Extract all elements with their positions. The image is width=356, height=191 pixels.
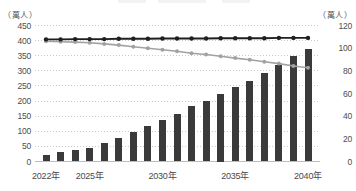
gray-line-left-axis-marker <box>146 46 150 50</box>
bar-2029 <box>144 126 151 161</box>
bar-2034 <box>217 94 224 162</box>
x-axis-tick-label: 2035年 <box>212 169 258 182</box>
dual-axis-combo-chart: （萬人） （萬人） 450400350300250200150100500120… <box>0 0 356 191</box>
left-axis-tick-label: 150 <box>3 111 31 121</box>
bar-2026 <box>101 143 108 161</box>
bar-2023 <box>57 152 64 161</box>
gray-line-left-axis-marker <box>117 43 121 47</box>
gray-line-left-axis-marker <box>88 41 92 45</box>
bar-2037 <box>261 73 268 161</box>
left-axis-tick-label: 300 <box>3 66 31 76</box>
gridline <box>35 25 320 26</box>
left-axis-tick-label: 450 <box>3 21 31 31</box>
gray-line-left-axis-marker <box>102 42 106 46</box>
left-axis-tick-label: 100 <box>3 126 31 136</box>
x-axis-tick-label: 2040年 <box>285 169 331 182</box>
gray-line-left-axis-marker <box>262 60 266 64</box>
x-axis-tick-label: 2022年 <box>23 169 69 182</box>
line-series-overlay <box>0 0 356 191</box>
right-axis-tick-label: 60 <box>328 89 352 99</box>
left-axis-unit-label: （萬人） <box>3 9 37 20</box>
gray-line-left-axis-marker <box>248 58 252 62</box>
x-axis-tick-label: 2030年 <box>139 169 185 182</box>
right-axis-tick-label: 100 <box>328 43 352 53</box>
cropped-legend-artifact <box>222 0 250 3</box>
right-axis-tick-label: 80 <box>328 66 352 76</box>
left-axis-tick-label: 200 <box>3 96 31 106</box>
gridline <box>35 55 320 56</box>
bar-2036 <box>246 81 253 161</box>
gray-line-left-axis-marker <box>160 48 164 52</box>
left-axis-tick-label: 400 <box>3 36 31 46</box>
right-axis-tick-label: 20 <box>328 134 352 144</box>
right-axis-tick-label: 40 <box>328 111 352 121</box>
gray-line-left-axis-marker <box>233 56 237 60</box>
cropped-legend-artifact <box>158 0 206 3</box>
bar-2040 <box>305 49 312 161</box>
gridline <box>35 40 320 41</box>
bar-2032 <box>188 106 195 162</box>
bar-2035 <box>232 87 239 162</box>
left-axis-tick-label: 50 <box>3 141 31 151</box>
left-axis-tick-label: 0 <box>3 157 31 167</box>
right-axis-tick-label: 120 <box>328 21 352 31</box>
bar-2028 <box>130 132 137 161</box>
bar-2031 <box>174 114 181 162</box>
x-axis-tick-label: 2025年 <box>67 169 113 182</box>
right-axis-unit-label: （萬人） <box>318 9 352 20</box>
bar-2038 <box>275 65 282 161</box>
bar-2024 <box>72 150 79 161</box>
cropped-legend-artifact <box>118 0 146 3</box>
right-axis-tick-label: 0 <box>328 157 352 167</box>
bar-2025 <box>86 148 93 162</box>
bar-2030 <box>159 120 166 162</box>
left-axis-tick-label: 350 <box>3 51 31 61</box>
bar-2039 <box>290 56 297 161</box>
gray-line-left-axis-marker <box>131 45 135 49</box>
gray-line-left-axis-marker <box>175 49 179 53</box>
bar-2022 <box>43 155 50 162</box>
left-axis-tick-label: 250 <box>3 81 31 91</box>
bar-2027 <box>115 138 122 162</box>
bar-2033 <box>203 101 210 161</box>
